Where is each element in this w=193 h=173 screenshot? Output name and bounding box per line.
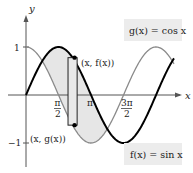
svg-text:2: 2	[124, 109, 130, 119]
x-tick-label-pi-over-2: π 2	[54, 98, 61, 119]
x-axis-label: x	[185, 90, 191, 101]
sin-cos-area-diagram: y x 1 −1 π 2 π 3π 2 (x, f(x)) (x, g(x)) …	[0, 0, 193, 173]
legend-f-label: f(x) = sin x	[130, 149, 183, 160]
plot-canvas: y x 1 −1 π 2 π 3π 2 (x, f(x)) (x, g(x)) …	[0, 0, 193, 173]
point-f-marker	[72, 55, 76, 59]
svg-text:2: 2	[55, 109, 61, 119]
y-axis-arrow-icon	[24, 15, 29, 22]
y-tick-label-1: 1	[14, 43, 20, 53]
point-label-f: (x, f(x))	[81, 58, 114, 68]
legend-g-label: g(x) = cos x	[129, 25, 187, 36]
point-label-g: (x, g(x))	[30, 134, 66, 144]
svg-text:π: π	[55, 98, 61, 108]
representative-rectangle	[68, 58, 77, 126]
y-tick-label-neg1: −1	[8, 138, 21, 148]
x-axis-arrow-icon	[175, 93, 182, 98]
y-axis-label: y	[28, 3, 35, 14]
point-g-marker	[72, 123, 76, 127]
x-tick-label-3pi-over-2: 3π 2	[121, 98, 133, 119]
svg-text:3π: 3π	[121, 98, 133, 108]
x-tick-label-pi: π	[87, 98, 93, 108]
